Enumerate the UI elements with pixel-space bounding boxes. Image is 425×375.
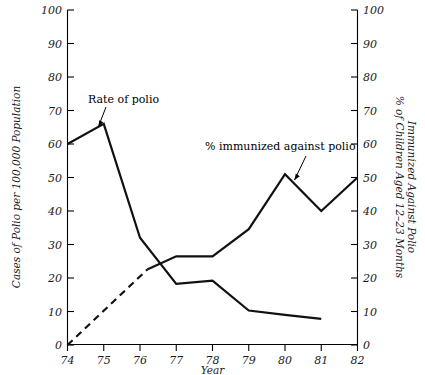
left-tick-label: 0 xyxy=(55,339,62,352)
right-axis-title-line2: Immunized Against Polio xyxy=(406,120,418,253)
chart-canvas: 100 90 80 70 60 50 40 30 20 10 0 100 90 … xyxy=(0,0,425,375)
x-tick-label: 75 xyxy=(97,354,111,367)
left-tick-label: 70 xyxy=(48,105,62,118)
right-tick-label: 100 xyxy=(363,4,384,17)
right-tick-label: 60 xyxy=(363,138,377,151)
x-tick-label: 77 xyxy=(169,354,183,367)
annotation-immunized: % immunized against polio xyxy=(205,140,356,180)
right-tick-label: 30 xyxy=(363,239,377,252)
x-tick-label: 81 xyxy=(314,354,328,367)
x-tick-label: 80 xyxy=(278,354,292,367)
right-axis-title-line1: % of Children Aged 12–23 Months xyxy=(394,96,406,279)
left-tick-label: 90 xyxy=(48,38,62,51)
left-axis-title: Cases of Polio per 100,000 Population xyxy=(10,86,22,289)
annotation-rate-of-polio-label: Rate of polio xyxy=(88,93,159,106)
left-axis-ticks xyxy=(68,10,75,345)
x-tick-label: 76 xyxy=(133,354,147,367)
series-line-rate-of-polio xyxy=(68,124,322,319)
left-tick-label: 60 xyxy=(48,138,62,151)
left-tick-label: 50 xyxy=(48,172,62,185)
series-line-immunized-solid xyxy=(147,174,357,269)
left-tick-label: 40 xyxy=(47,205,62,218)
right-tick-label: 40 xyxy=(362,205,377,218)
right-tick-label: 50 xyxy=(363,172,377,185)
x-tick-label: 82 xyxy=(351,354,365,367)
right-tick-label: 0 xyxy=(363,339,370,352)
left-tick-label: 30 xyxy=(48,239,62,252)
right-tick-label: 20 xyxy=(362,272,377,285)
left-tick-label: 100 xyxy=(41,4,62,17)
right-axis-tick-labels: 100 90 80 70 60 50 40 30 20 10 0 xyxy=(362,4,384,352)
left-tick-label: 10 xyxy=(48,306,62,319)
annotation-arrowhead-icon xyxy=(295,174,300,180)
right-tick-label: 10 xyxy=(363,306,377,319)
bottom-axis-ticks xyxy=(68,345,358,351)
x-axis-title: Year xyxy=(201,364,225,375)
right-tick-label: 90 xyxy=(363,38,377,51)
right-tick-label: 70 xyxy=(363,105,377,118)
x-tick-label: 74 xyxy=(61,354,75,367)
left-tick-label: 20 xyxy=(47,272,62,285)
annotation-immunized-label: % immunized against polio xyxy=(205,140,356,153)
series-line-immunized-dashed xyxy=(68,270,148,345)
polio-immunization-chart: 100 90 80 70 60 50 40 30 20 10 0 100 90 … xyxy=(0,0,425,375)
x-tick-label: 79 xyxy=(242,354,256,367)
left-axis-tick-labels: 100 90 80 70 60 50 40 30 20 10 0 xyxy=(41,4,62,352)
left-tick-label: 80 xyxy=(48,71,62,84)
annotation-rate-of-polio: Rate of polio xyxy=(88,93,159,127)
right-tick-label: 80 xyxy=(363,71,377,84)
